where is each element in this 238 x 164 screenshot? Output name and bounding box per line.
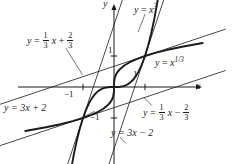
label-tru-intercept-fraction: 2 3 xyxy=(67,32,73,51)
label-trl-intercept-numerator: 2 xyxy=(183,104,189,112)
x-tick-label-neg1: −1 xyxy=(64,89,74,99)
graph-plot xyxy=(0,0,238,164)
label-trl-slope-denominator: 3 xyxy=(159,114,165,122)
label-tru-intercept-denominator: 3 xyxy=(67,42,73,50)
label-trl-slope-numerator: 1 xyxy=(159,104,165,112)
label-tru-lhs: y xyxy=(27,35,31,46)
label-trl-lhs: y xyxy=(143,107,147,118)
label-tru-slope-numerator: 1 xyxy=(43,32,49,40)
label-root-eq: = xyxy=(162,57,168,68)
tangent-line-group xyxy=(0,0,226,164)
label-cubic-eq: = xyxy=(141,4,147,15)
leader-line-group xyxy=(66,14,152,143)
label-trl-variable: x xyxy=(168,107,172,118)
label-cubic-curve: y = x3 xyxy=(134,4,157,15)
label-trl-intercept-fraction: 2 3 xyxy=(183,104,189,123)
x-axis-label: x xyxy=(196,81,200,91)
label-tru-eq: = xyxy=(34,35,40,46)
label-trl-eq: = xyxy=(150,107,156,118)
label-tru-slope-fraction: 1 3 xyxy=(43,32,49,51)
axis-group xyxy=(18,4,202,164)
label-tru-intercept-numerator: 2 xyxy=(67,32,73,40)
label-trl-slope-fraction: 1 3 xyxy=(159,104,165,123)
label-tru-sign: + xyxy=(59,35,65,46)
figure-canvas: y = x3 y = x1/3 y = 1 3 x + 2 3 y = 1 3 xyxy=(0,0,238,164)
label-tangent-root-upper: y = 1 3 x + 2 3 xyxy=(27,32,74,51)
label-trl-intercept-denominator: 3 xyxy=(183,114,189,122)
label-tangent-cubic-upper: y = 3x + 2 xyxy=(4,103,46,113)
label-tru-slope-denominator: 3 xyxy=(43,42,49,50)
label-cube-root-curve: y = x1/3 xyxy=(155,57,184,68)
label-tangent-root-lower: y = 1 3 x − 2 3 xyxy=(143,104,190,123)
y-tick-label-neg1: −1 xyxy=(90,112,100,122)
label-cubic-lhs: y xyxy=(134,4,138,15)
label-root-lhs: y xyxy=(155,57,159,68)
y-tick-label-1: 1 xyxy=(108,45,113,55)
label-cubic-rhs-exponent: 3 xyxy=(154,3,158,11)
y-axis-label: y xyxy=(103,0,107,9)
label-tangent-cubic-lower: y = 3x − 2 xyxy=(111,128,153,138)
label-tru-variable: x xyxy=(52,35,56,46)
label-root-rhs-exponent: 1/3 xyxy=(175,56,184,64)
x-tick-label-1: 1 xyxy=(133,69,138,79)
label-trl-sign: − xyxy=(175,107,181,118)
